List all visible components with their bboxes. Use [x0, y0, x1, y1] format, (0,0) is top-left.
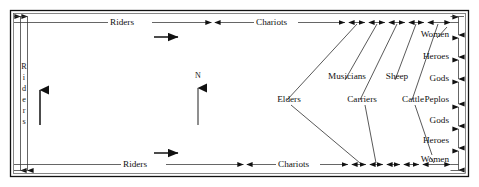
west-letter-4: r: [23, 106, 26, 115]
west-letter-3: e: [22, 95, 26, 104]
west-letter-0: R: [21, 62, 27, 71]
west-letter-2: d: [22, 84, 26, 93]
east-segment-label-0: Women: [421, 29, 450, 39]
segment-label-musicians: Musicians: [328, 71, 366, 81]
frieze-diagram-root: Riders Chariots Riders Chariots: [0, 0, 479, 187]
east-side-labels: Women Heroes Gods Peplos Gods Heroes Wom…: [421, 29, 450, 164]
compass-label: N: [195, 71, 201, 80]
south-dimension-line: Riders Chariots: [21, 159, 451, 169]
segment-label-cattle: Cattle: [402, 94, 424, 104]
south-segment-label-chariots: Chariots: [278, 159, 310, 169]
segment-label-elders: Elders: [277, 94, 301, 104]
procession-direction-arrows: [40, 37, 178, 153]
east-segment-label-6: Women: [421, 154, 450, 164]
west-side-label-riders: R i d e r s: [21, 62, 27, 126]
fan-labels: Elders Musicians Carriers Sheep Cattle: [277, 71, 424, 104]
frieze-diagram-svg: Riders Chariots Riders Chariots: [0, 0, 479, 187]
south-leader-lines: [291, 105, 434, 163]
west-letter-1: i: [23, 73, 26, 82]
east-segment-label-2: Gods: [430, 73, 450, 83]
east-segment-label-4: Gods: [430, 115, 450, 125]
building-outline: [11, 11, 469, 177]
north-compass: N: [195, 71, 201, 125]
north-segment-label-chariots: Chariots: [256, 17, 288, 27]
east-dimension-line: [451, 17, 465, 171]
north-dimension-line: Riders Chariots: [21, 17, 451, 27]
south-segment-label-riders: Riders: [123, 159, 147, 169]
west-letter-5: s: [22, 117, 25, 126]
north-segment-label-riders: Riders: [110, 17, 134, 27]
segment-label-sheep: Sheep: [386, 71, 409, 81]
segment-label-carriers: Carriers: [347, 94, 377, 104]
west-dimension-line: [14, 17, 28, 171]
east-segment-label-3: Peplos: [424, 94, 449, 104]
